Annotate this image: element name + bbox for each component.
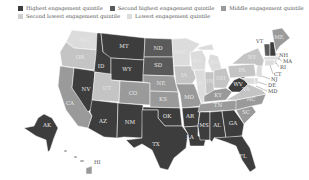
- state-label: RI: [280, 64, 286, 70]
- state-label: NV: [82, 86, 92, 92]
- state-label: MS: [199, 122, 209, 128]
- state-label: NY: [248, 54, 257, 60]
- state-label: IN: [207, 78, 214, 84]
- state-label: AR: [185, 113, 195, 119]
- state-label: FL: [239, 153, 247, 159]
- state-label: KY: [214, 92, 222, 98]
- state-hi[interactable]: [64, 150, 92, 174]
- state-label: HI: [94, 159, 101, 165]
- state-label: UT: [103, 85, 112, 91]
- state-ak[interactable]: [24, 114, 58, 152]
- state-label: OK: [163, 113, 173, 119]
- state-ct[interactable]: [265, 60, 274, 66]
- state-label: VT: [255, 38, 264, 44]
- state-label: AK: [42, 122, 52, 128]
- state-label: PA: [238, 67, 246, 73]
- state-label: CO: [129, 90, 138, 96]
- state-label: NC: [246, 96, 255, 102]
- state-label: AL: [212, 122, 221, 128]
- state-label: AZ: [98, 118, 107, 124]
- state-label: MO: [184, 94, 195, 100]
- state-vt[interactable]: [264, 44, 270, 56]
- state-label: LA: [186, 134, 195, 140]
- state-label: WI: [193, 58, 201, 64]
- state-label: OH: [216, 75, 226, 81]
- state-fl[interactable]: [214, 136, 256, 172]
- state-label: ME: [274, 34, 284, 40]
- state-label: OR: [76, 54, 86, 60]
- state-label: ID: [98, 63, 105, 69]
- state-nj[interactable]: [256, 66, 262, 78]
- state-label: GA: [229, 120, 238, 126]
- state-label: WA: [80, 37, 90, 43]
- state-label: ND: [153, 45, 163, 51]
- state-label: MI: [210, 59, 218, 65]
- state-ma[interactable]: [264, 56, 280, 60]
- us-map: WA OR CA NV ID MT WY UT CO AZ NM ND SD N…: [0, 0, 309, 180]
- state-label: SD: [154, 62, 163, 68]
- state-label: IL: [198, 80, 204, 86]
- state-label: TN: [214, 102, 223, 108]
- state-label: WY: [122, 66, 132, 72]
- state-label: CA: [66, 100, 75, 106]
- state-label: WV: [233, 81, 244, 87]
- state-label: SC: [242, 109, 250, 115]
- state-label: TX: [152, 141, 160, 147]
- state-label: KS: [159, 96, 167, 102]
- state-label: MT: [119, 43, 129, 49]
- state-label: IA: [181, 72, 188, 78]
- state-label: NE: [157, 80, 166, 86]
- state-label: NM: [125, 119, 136, 125]
- state-label: MD: [268, 88, 277, 94]
- state-label: MN: [175, 49, 186, 55]
